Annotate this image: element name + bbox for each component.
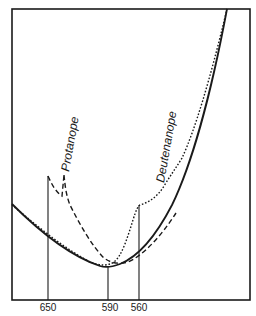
tick-label-560: 560 [131,302,148,313]
chart: Protanope Deutenanope 650 590 560 [0,0,256,316]
deuteranope-curve [12,9,227,265]
protanope-label: Protanope [58,115,81,172]
deuteranope-label: Deutenanope [153,110,179,184]
normal-curve [12,9,227,267]
tick-label-590: 590 [102,302,119,313]
tick-label-650: 650 [40,302,57,313]
